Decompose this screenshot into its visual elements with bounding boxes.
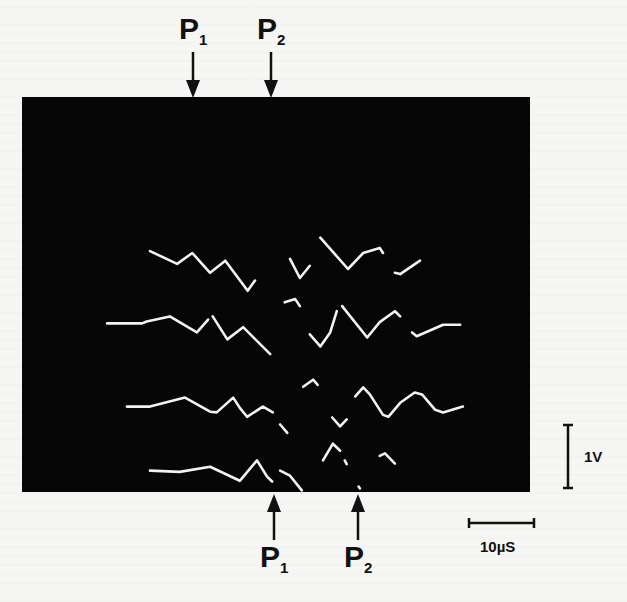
horizontal-scale-line bbox=[466, 516, 538, 532]
trace-segment bbox=[280, 425, 287, 433]
waveform-traces bbox=[22, 97, 530, 492]
vertical-scale-line bbox=[560, 422, 580, 492]
time-scale-bar: 10µS bbox=[466, 516, 538, 560]
waveform-trace-1 bbox=[150, 238, 420, 291]
voltage-scale-bar: 1V bbox=[560, 422, 620, 492]
trace-segment bbox=[303, 380, 318, 387]
trace-segment bbox=[412, 325, 460, 337]
arrow-up-icon bbox=[254, 492, 294, 542]
trace-segment bbox=[290, 259, 310, 278]
trace-segment bbox=[150, 251, 255, 291]
trace-segment bbox=[395, 261, 420, 274]
time-scale-label: 10µS bbox=[480, 538, 515, 555]
arrow-down-icon bbox=[251, 14, 291, 104]
trace-segment bbox=[345, 460, 347, 464]
trace-segment bbox=[332, 418, 347, 427]
marker-p2-bottom: P2 bbox=[338, 492, 378, 582]
trace-segment bbox=[320, 238, 383, 269]
trace-segment bbox=[323, 444, 340, 461]
trace-segment bbox=[127, 398, 273, 417]
marker-p1-bottom: P1 bbox=[254, 492, 294, 582]
trace-segment bbox=[380, 453, 395, 463]
voltage-scale-label: 1V bbox=[584, 448, 602, 465]
arrow-up-icon bbox=[338, 492, 378, 542]
marker-label: P1 bbox=[260, 542, 287, 577]
waveform-trace-2 bbox=[107, 299, 460, 354]
marker-p2-top: P2 bbox=[251, 14, 291, 104]
trace-segment bbox=[150, 460, 272, 481]
waveform-trace-3 bbox=[127, 380, 463, 433]
trace-segment bbox=[355, 387, 463, 416]
trace-segment bbox=[342, 306, 400, 337]
trace-segment bbox=[280, 471, 302, 491]
trace-segment bbox=[310, 311, 337, 346]
trace-segment bbox=[107, 316, 208, 332]
trace-segment bbox=[285, 299, 300, 306]
trace-segment bbox=[359, 487, 360, 489]
marker-label: P2 bbox=[344, 542, 371, 577]
oscilloscope-screen bbox=[22, 97, 530, 492]
marker-p1-top: P1 bbox=[173, 14, 213, 104]
waveform-trace-4 bbox=[150, 444, 395, 491]
arrow-down-icon bbox=[173, 14, 213, 104]
trace-segment bbox=[213, 316, 271, 354]
